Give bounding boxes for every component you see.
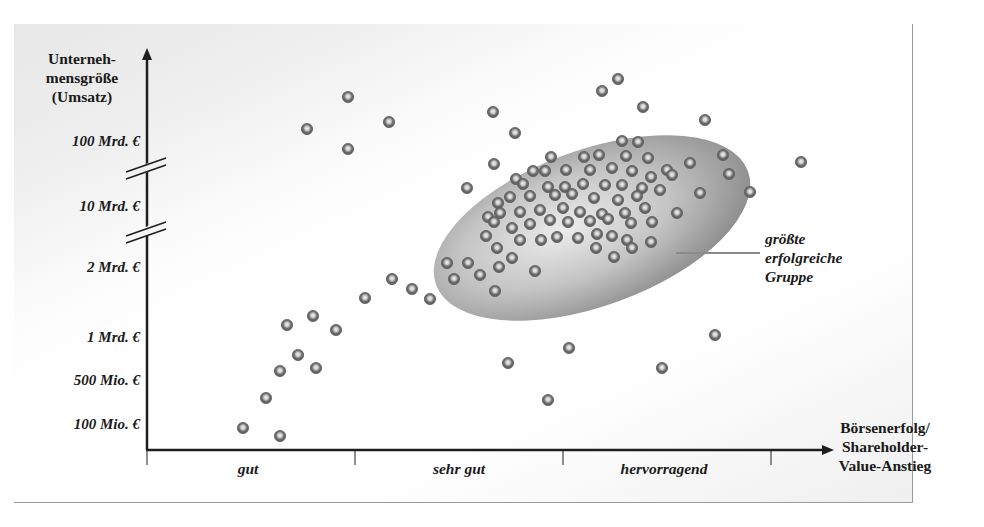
data-point [474,269,485,280]
data-point [534,204,545,215]
y-axis-title-line: (Umsatz) [26,87,138,106]
data-point [514,234,525,245]
data-point [274,365,285,376]
data-point [551,231,562,242]
data-point [744,186,755,197]
data-point [274,430,285,441]
data-point [625,217,636,228]
annotation-line: erfolgreiche [765,248,842,267]
data-point [619,207,630,218]
data-point [642,152,653,163]
data-point [631,190,642,201]
y-tick-2-mrd: 2 Mrd. € [87,259,140,276]
data-point [342,143,353,154]
data-point [699,114,710,125]
x-category-hervorragend: hervorragend [621,460,708,478]
data-point [524,218,535,229]
data-point [626,242,637,253]
data-point [488,158,499,169]
data-point [620,150,631,161]
data-point [489,285,500,296]
data-point [307,310,318,321]
data-point [616,179,627,190]
data-point [584,215,595,226]
data-point [492,197,503,208]
data-point [260,392,271,403]
data-point [646,216,657,227]
data-point [406,283,417,294]
data-point [342,91,353,102]
x-axis-title: Börsenerfolg/ Shareholder- Value-Anstieg [815,418,955,475]
annotation-line: größte [765,229,842,248]
data-point [606,230,617,241]
annotation-line: Gruppe [765,267,842,286]
data-point [639,202,650,213]
data-point [602,213,613,224]
data-point [596,85,607,96]
data-point [666,169,677,180]
x-axis-title-line: Börsenerfolg/ [815,418,955,437]
data-point [506,252,517,263]
data-point [535,234,546,245]
data-point [694,187,705,198]
data-point [608,251,619,262]
data-point [461,182,472,193]
data-point [637,101,648,112]
data-point [563,342,574,353]
data-point [606,162,617,173]
data-point [590,242,601,253]
data-point [717,149,728,160]
data-point [330,324,341,335]
data-point [386,273,397,284]
data-point [566,188,577,199]
data-point [591,228,602,239]
data-point [527,165,538,176]
data-point [549,189,560,200]
data-point [656,362,667,373]
data-point [632,136,643,147]
y-tick-100-mrd: 100 Mrd. € [72,133,140,150]
data-point [448,273,459,284]
y-axis-title-line: mensgröße [26,68,138,87]
data-point [493,261,504,272]
data-point [506,222,517,233]
data-point [462,257,473,268]
data-point [654,184,665,195]
data-point [612,73,623,84]
data-point [599,179,610,190]
data-point [616,135,627,146]
data-point [359,292,370,303]
data-point [588,192,599,203]
data-point [517,178,528,189]
data-point [574,206,585,217]
y-axis-title-line: Unterneh- [26,49,138,68]
data-point [292,349,303,360]
data-point [441,257,452,268]
data-point [612,194,623,205]
data-point [593,149,604,160]
y-tick-100-mio: 100 Mio. € [74,416,140,433]
data-point [684,157,695,168]
data-point [301,123,312,134]
data-point [539,165,550,176]
data-point [529,265,540,276]
data-point [645,236,656,247]
data-point [723,168,734,179]
x-axis-title-line: Value-Anstieg [815,456,955,475]
data-point [504,191,515,202]
y-axis [126,48,166,450]
y-axis-title: Unterneh- mensgröße (Umsatz) [26,49,138,106]
data-point [557,202,568,213]
x-category-gut: gut [238,460,259,478]
data-point [310,362,321,373]
data-point [709,329,720,340]
x-axis-title-line: Shareholder- [815,437,955,456]
data-point [502,357,513,368]
data-point [562,216,573,227]
data-point [572,232,583,243]
y-tick-500-mio: 500 Mio. € [74,372,140,389]
y-tick-10-mrd: 10 Mrd. € [80,198,140,215]
data-point [237,422,248,433]
data-point [542,394,553,405]
data-point [383,116,394,127]
